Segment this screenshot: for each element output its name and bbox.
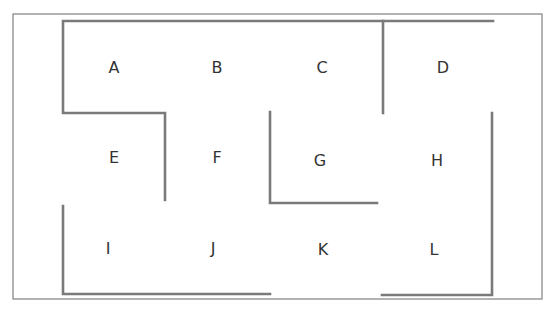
room-labels: ABCDEFGHIJKL bbox=[106, 58, 450, 259]
bottom-left-wall bbox=[63, 206, 270, 294]
maze-canvas: ABCDEFGHIJKL bbox=[0, 0, 555, 310]
top-wall bbox=[63, 21, 493, 200]
room-label-g: G bbox=[314, 151, 326, 170]
room-label-a: A bbox=[109, 58, 120, 77]
maze-walls bbox=[63, 21, 493, 295]
room-label-l: L bbox=[430, 240, 439, 259]
room-label-i: I bbox=[106, 239, 111, 258]
room-label-d: D bbox=[437, 58, 449, 77]
room-label-k: K bbox=[318, 240, 329, 259]
maze-diagram: ABCDEFGHIJKL bbox=[0, 0, 555, 310]
room-label-f: F bbox=[212, 148, 221, 167]
room-label-h: H bbox=[431, 151, 443, 170]
room-label-b: B bbox=[212, 58, 223, 77]
room-label-e: E bbox=[109, 148, 119, 167]
right-wall bbox=[382, 113, 492, 295]
room-label-c: C bbox=[316, 58, 327, 77]
outer-frame bbox=[13, 14, 542, 299]
room-label-j: J bbox=[210, 239, 216, 258]
